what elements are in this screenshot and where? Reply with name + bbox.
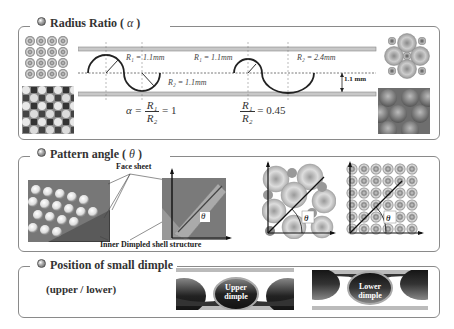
radius-ratio-title: Radius Ratio ( α ): [33, 16, 144, 31]
theta-label: θ: [201, 211, 205, 221]
mixed-dimple-render-image: [378, 88, 430, 134]
mixed-dimple-pattern-icon: [384, 33, 430, 79]
dimpled-sheet-illustration: [28, 180, 110, 242]
upper-dimple-label: Upper: [225, 283, 247, 292]
svg-text:θ: θ: [304, 213, 309, 223]
r1-right-label: R₁ = 1.1mm: [194, 53, 233, 62]
bullet-icon: [37, 17, 46, 26]
uniform-dimple-pattern-icon: [24, 35, 68, 79]
bullet-icon: [37, 259, 46, 268]
bullet-icon: [37, 148, 46, 157]
small-dimple-title: Position of small dimple: [33, 258, 177, 273]
small-dimple-subtitle: (upper / lower): [46, 283, 116, 295]
r1-left-label: R₁ = 1.1mm: [126, 53, 165, 62]
radius-cross-section-diagram: [78, 40, 378, 104]
lower-dimple-label: Lower: [359, 282, 382, 291]
large-small-dimple-pattern-diagram: θ: [262, 161, 336, 239]
svg-text:dimple: dimple: [224, 292, 248, 301]
equation-equal-ratio: α = R₁R₂ = 1: [126, 99, 176, 124]
pattern-angle-strip-diagram: [160, 168, 232, 242]
face-sheet-label: Face sheet: [116, 162, 151, 171]
equation-unequal-ratio: R₁R₂ = 0.45: [240, 99, 286, 124]
dense-dimple-pattern-diagram: θ: [344, 161, 424, 239]
lower-dimple-image: Lower dimple: [312, 270, 428, 310]
uniform-dimple-render-image: [22, 86, 74, 134]
gap-dimension-label: 1.1 mm: [344, 75, 366, 83]
pattern-angle-title: Pattern angle ( θ ): [33, 147, 146, 162]
upper-dimple-image: Upper dimple: [176, 268, 294, 310]
svg-text:θ: θ: [386, 213, 391, 223]
r2-left-label: R₂ = 1.1mm: [168, 78, 207, 87]
svg-text:dimple: dimple: [358, 291, 382, 300]
r2-right-label: R₂ = 2.4mm: [297, 53, 336, 62]
